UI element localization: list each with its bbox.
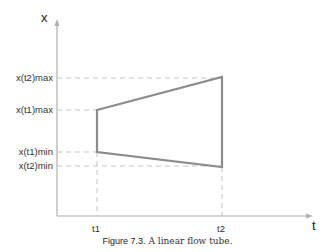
y-tick-x-t1-max: x(t1)max <box>16 105 53 115</box>
y-tick-x-t2-min: x(t2)min <box>19 161 53 171</box>
x-tick-t1: t1 <box>92 224 100 234</box>
flow-tube-shape <box>97 77 222 167</box>
flow-tube-figure: x t x(t2)max x(t1)max x(t1)min x(t2)min … <box>0 0 335 252</box>
y-tick-x-t2-max: x(t2)max <box>16 73 53 83</box>
y-tick-x-t1-min: x(t1)min <box>19 147 53 157</box>
figure-caption: Figure 7.3. A linear flow tube. <box>0 236 335 246</box>
figure-number: Figure 7.3. <box>102 236 145 246</box>
y-axis-arrow-icon <box>55 19 60 26</box>
caption-text: A linear flow tube. <box>148 236 232 246</box>
flow-tube-diagram <box>0 0 335 252</box>
y-axis-label: x <box>41 11 48 24</box>
axes <box>57 24 309 216</box>
t-axis-label: t <box>312 219 316 232</box>
x-tick-t2: t2 <box>217 224 225 234</box>
